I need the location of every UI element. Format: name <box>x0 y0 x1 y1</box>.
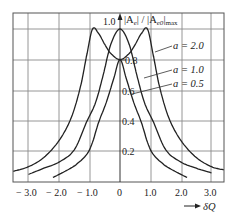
label-a1: a = 1.0 <box>173 64 204 75</box>
label-a05: a = 0.5 <box>173 78 204 89</box>
x-axis-label: δQ <box>203 201 216 212</box>
x-tick--3.0: − 3.0 <box>16 187 37 198</box>
x-arrow-icon <box>195 204 201 209</box>
y-tick-0.4: 0.4 <box>122 116 135 127</box>
y-tick-0.8: 0.8 <box>125 55 138 66</box>
y-tick-0.6: 0.6 <box>122 86 135 97</box>
y-tick-1.0: 1.0 <box>103 16 116 27</box>
x-tick--2.0: − 2.0 <box>46 187 67 198</box>
x-tick-1.0: 1.0 <box>144 187 157 198</box>
x-tick-0: 0 <box>117 187 122 198</box>
y-tick-0.2: 0.2 <box>122 146 135 157</box>
x-tick--1.0: − 1.0 <box>77 187 98 198</box>
label-a2: a = 2.0 <box>173 40 204 51</box>
y-axis-arrow-icon <box>118 13 123 20</box>
chart: 1.0 |Ae| / |Ae0|max a = 2.0 a = 1.0 a = … <box>0 0 238 214</box>
x-tick-3.0: 3.0 <box>204 187 217 198</box>
leader-a2 <box>155 46 172 52</box>
x-tick-2.0: 2.0 <box>175 187 188 198</box>
leader-a05 <box>132 84 172 94</box>
